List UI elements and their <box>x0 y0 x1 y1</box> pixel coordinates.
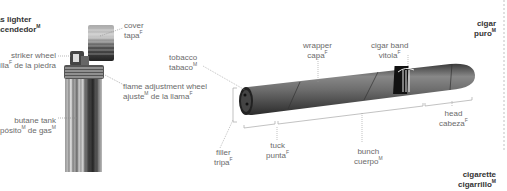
label-flame-adjustment-wheel: flame adjustment wheel ajusteM de la lla… <box>123 82 207 101</box>
label-cover: cover tapaF <box>124 21 144 40</box>
cigar-title: cigar puroM <box>474 19 496 38</box>
illustration-layer <box>0 0 507 191</box>
label-tuck: tuck puntaF <box>266 141 289 160</box>
lighter-illustration <box>64 25 114 172</box>
label-wrapper: wrapper capaF <box>303 41 332 60</box>
label-striker-wheel: striker wheel ruedecillaF de la piedra <box>0 51 56 70</box>
label-cigar-band: cigar band vitolaF <box>371 41 408 60</box>
lighter-title: gas lighter encendedorM <box>0 15 41 34</box>
label-tobacco: tobacco tabacoM <box>169 53 197 72</box>
cigarette-title: cigarette cigarrilloM <box>458 170 496 189</box>
label-bunch: bunch cuerpoM <box>354 147 383 166</box>
label-filler: filler tripaF <box>214 148 233 167</box>
cigar-illustration <box>239 64 475 115</box>
label-butane-tank: butane tank depósitoM de gasM <box>0 116 56 135</box>
label-head: head cabezaF <box>439 109 468 128</box>
